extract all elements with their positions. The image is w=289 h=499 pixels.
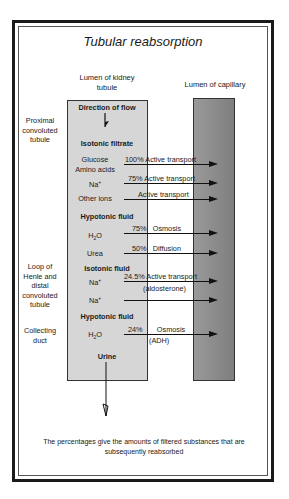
caption: The percentages give the amounts of filt…: [20, 437, 268, 457]
sodium-text: Na: [89, 278, 98, 287]
substance-sodium-2: Na+: [67, 276, 123, 288]
transport-percent: 24%: [128, 325, 143, 334]
transport-note: (ADH): [149, 336, 169, 345]
region-line: Collecting: [16, 326, 64, 336]
transport-percent: 75%: [128, 174, 143, 183]
region-line: tubule: [16, 135, 64, 145]
transport-mechanism: Active transport: [146, 272, 197, 281]
transport-label: Active transport: [138, 190, 189, 199]
capillary-lumen: [193, 98, 235, 381]
transport-mechanism: Osmosis: [157, 325, 185, 334]
sodium-text: Na: [89, 180, 98, 189]
substance-amino-acids: Amino acids: [67, 165, 123, 175]
tubule-heading-line: tubule: [62, 83, 152, 93]
substance-glucose: Glucose: [67, 155, 123, 165]
substance-sodium-3: Na+: [67, 294, 123, 306]
transport-label: 100% Active transport: [125, 155, 196, 164]
transport-arrow: [124, 253, 210, 254]
transport-arrow: [124, 164, 210, 165]
substance-other-ions: Other ions: [67, 194, 123, 204]
transport-mechanism: Diffusion: [153, 244, 181, 253]
region-line: convoluted: [16, 126, 64, 136]
region-collecting-label: Collecting duct: [16, 326, 64, 345]
sodium-text: Na: [89, 296, 98, 305]
diagram-title: Tubular reabsorption: [18, 34, 268, 49]
capillary-column-heading: Lumen of capillary: [170, 80, 260, 90]
caption-line: The percentages give the amounts of filt…: [20, 437, 268, 447]
transport-arrow: [124, 300, 210, 301]
flow-arrow-icon: [101, 113, 111, 129]
region-line: Henle and: [16, 272, 64, 282]
substance-sodium: Na+: [67, 178, 123, 190]
region-line: distal: [16, 281, 64, 291]
transport-arrow: [124, 183, 210, 184]
region-line: convoluted: [16, 291, 64, 301]
caption-line: subsequently reabsorbed: [20, 447, 268, 457]
transport-arrow: [124, 199, 210, 200]
tubule-column-heading: Lumen of kidney tubule: [62, 73, 152, 93]
substance-water: H2O: [67, 231, 123, 244]
urine-flow-arrow-icon: [100, 362, 112, 418]
region-line: tubule: [16, 300, 64, 310]
region-loop-label: Loop of Henle and distal convoluted tubu…: [16, 262, 64, 310]
transport-mechanism: Active transport: [145, 155, 196, 164]
tubule-heading-line: Lumen of kidney: [62, 73, 152, 83]
transport-percent: 24.5%: [124, 272, 145, 281]
region-line: Loop of: [16, 262, 64, 272]
transport-arrow: [124, 233, 210, 234]
transport-label: 50% Diffusion: [132, 244, 181, 253]
substance-urea: Urea: [67, 249, 123, 259]
section-hypotonic-fluid-2: Hypotonic fluid: [67, 312, 147, 322]
region-line: duct: [16, 336, 64, 346]
transport-percent: 75%: [132, 224, 147, 233]
transport-arrow: [124, 281, 210, 282]
section-hypotonic-fluid: Hypotonic fluid: [67, 212, 147, 222]
direction-of-flow-label: Direction of flow: [67, 103, 147, 113]
transport-label: 75% Active transport: [128, 174, 195, 183]
transport-label: 75% Osmosis: [132, 224, 181, 233]
section-urine: Urine: [67, 352, 147, 362]
substance-water-2: H2O: [67, 330, 123, 343]
transport-mechanism: Osmosis: [153, 224, 181, 233]
transport-note: (aldosterone): [143, 284, 186, 293]
transport-mechanism: Active transport: [144, 174, 195, 183]
transport-percent: 50%: [132, 244, 147, 253]
transport-percent: 100%: [125, 155, 144, 164]
transport-label: 24% Osmosis: [128, 325, 185, 334]
region-line: Proximal: [16, 116, 64, 126]
transport-arrow: [124, 334, 210, 335]
region-proximal-label: Proximal convoluted tubule: [16, 116, 64, 145]
transport-label: 24.5% Active transport: [124, 272, 197, 281]
section-isotonic-filtrate: Isotonic filtrate: [67, 139, 147, 149]
